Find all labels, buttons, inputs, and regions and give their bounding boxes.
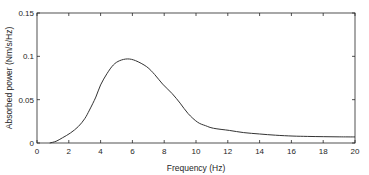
x-tick-label: 4 xyxy=(98,147,103,156)
x-tick-label: 10 xyxy=(192,147,201,156)
x-tick-label: 2 xyxy=(67,147,72,156)
x-tick-labels: 02468101214161820 xyxy=(35,147,360,156)
x-tick-label: 16 xyxy=(287,147,296,156)
x-tick-label: 20 xyxy=(351,147,360,156)
x-tick-label: 8 xyxy=(162,147,167,156)
y-tick-labels: 00.050.10.15 xyxy=(18,9,34,148)
x-tick-label: 14 xyxy=(255,147,264,156)
y-tick-label: 0.05 xyxy=(18,96,34,105)
y-tick-label: 0.15 xyxy=(18,9,34,18)
y-tick-label: 0.1 xyxy=(23,52,35,61)
plot-area xyxy=(37,13,355,143)
x-tick-label: 12 xyxy=(223,147,232,156)
y-axis-label: Absorbed power (Nm/s/Hz) xyxy=(4,27,14,130)
x-tick-label: 18 xyxy=(319,147,328,156)
x-axis-label: Frequency (Hz) xyxy=(167,163,226,173)
x-tick-label: 0 xyxy=(35,147,40,156)
line-chart: 02468101214161820 00.050.10.15 Frequency… xyxy=(0,0,369,175)
y-tick-label: 0 xyxy=(30,139,35,148)
x-tick-label: 6 xyxy=(130,147,135,156)
